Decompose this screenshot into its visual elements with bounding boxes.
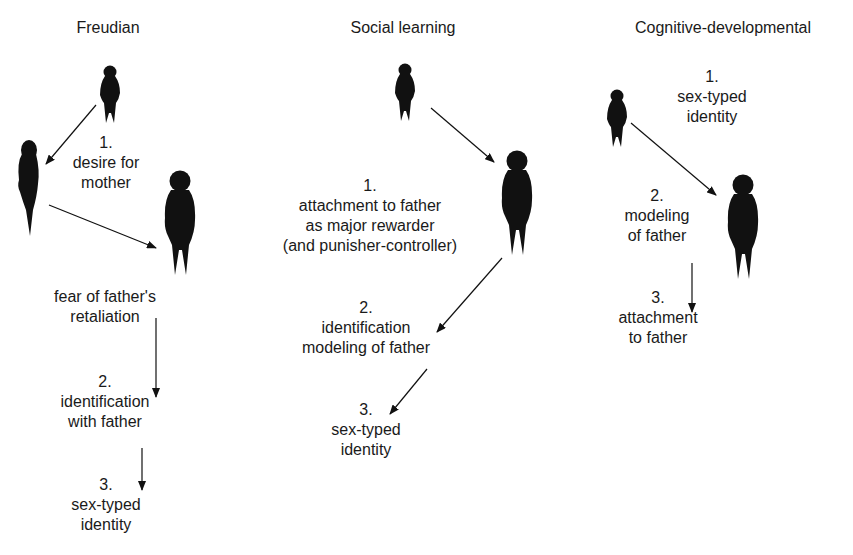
social-learning-step-2: 2. identification modeling of father xyxy=(302,298,430,358)
cognitive-step-3: 3. attachment to father xyxy=(618,288,697,348)
cognitive-step-1: 1. sex-typed identity xyxy=(677,67,746,127)
child-figure-icon xyxy=(607,90,627,148)
column-title-cognitive-developmental: Cognitive-developmental xyxy=(635,18,811,38)
father-figure-icon xyxy=(165,171,195,276)
arrow xyxy=(49,205,156,248)
social-learning-step-3: 3. sex-typed identity xyxy=(331,400,400,460)
child-figure-icon xyxy=(395,64,415,122)
arrow xyxy=(631,123,716,195)
arrow xyxy=(437,258,502,332)
father-figure-icon xyxy=(502,151,532,256)
child-figure-icon xyxy=(100,66,120,124)
arrow xyxy=(431,108,494,162)
freudian-step-2: 2. identification with father xyxy=(61,372,150,432)
social-learning-step-1: 1. attachment to father as major rewarde… xyxy=(283,176,457,256)
freudian-fear-of-father: fear of father's retaliation xyxy=(54,287,156,327)
column-title-social-learning: Social learning xyxy=(351,18,456,38)
freudian-step-1: 1. desire for mother xyxy=(73,133,140,193)
father-figure-icon xyxy=(728,175,758,280)
mother-figure-icon xyxy=(18,140,38,236)
column-title-freudian: Freudian xyxy=(76,18,139,38)
freudian-step-3: 3. sex-typed identity xyxy=(71,475,140,535)
cognitive-step-2: 2. modeling of father xyxy=(625,186,690,246)
